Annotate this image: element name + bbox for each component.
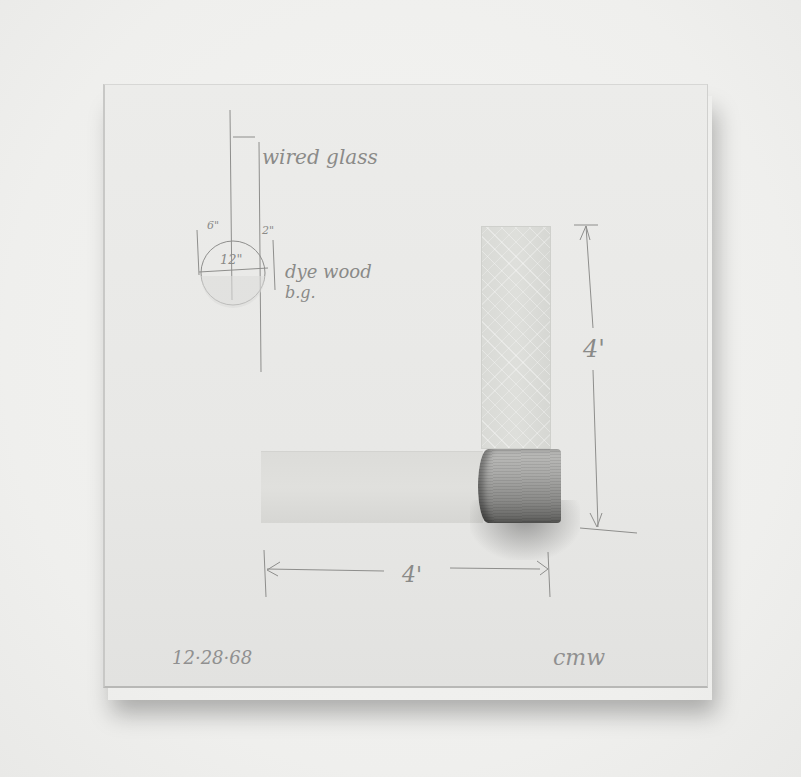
wired-glass-vertical: [481, 226, 551, 449]
label-dyed-wood: dye wood: [285, 261, 372, 282]
label-dim-2: 2": [262, 224, 274, 237]
label-dim-6: 6": [207, 219, 219, 232]
wired-glass-horizontal: [261, 451, 483, 523]
label-dim-12: 12": [220, 252, 243, 267]
label-bg: b.g.: [285, 283, 316, 302]
label-signature: cmw: [553, 645, 605, 670]
label-horizontal-dimension: 4': [402, 562, 422, 587]
dyed-wood-cylinder: [478, 449, 561, 523]
label-wired-glass: wired glass: [262, 145, 378, 169]
label-vertical-dimension: 4': [583, 335, 605, 363]
pencil-sketch-lines: [0, 0, 801, 777]
wire-mesh-pattern: [482, 227, 550, 448]
label-date: 12·28·68: [172, 647, 252, 668]
